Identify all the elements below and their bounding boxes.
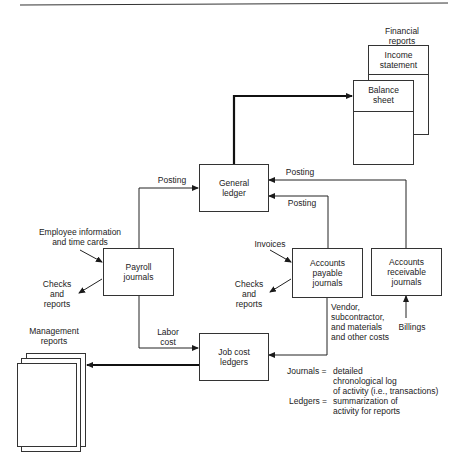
legend-ledgers-term: Ledgers = (289, 396, 339, 406)
posting-label-ap: Posting (282, 198, 322, 208)
management-reports-label: Management reports (24, 326, 84, 346)
general-ledger-box: General ledger (199, 164, 269, 212)
labor-cost-label: Labor cost (150, 327, 186, 347)
balance-sheet-label: Balance sheet (354, 81, 413, 112)
posting-label-payroll: Posting (152, 175, 192, 185)
checks-reports-ap-label: Checks and reports (230, 279, 268, 309)
payroll-journals-box: Payroll journals (103, 248, 174, 296)
employee-info-arrow (80, 250, 102, 262)
invoices-arrow (270, 250, 291, 262)
gl-to-balance-sheet-arrow (234, 96, 352, 164)
accounts-receivable-journals-box: Accounts receivable journals (371, 248, 442, 296)
invoices-label: Invoices (250, 239, 290, 249)
ap-checks-arrow (270, 279, 291, 292)
payroll-posting-arrow (139, 188, 198, 248)
legend-journals-term: Journals = (287, 366, 337, 376)
vendor-cost-arrow (269, 297, 327, 355)
billings-label: Billings (392, 322, 432, 332)
legend-journals-definition: detailed chronological log of activity (… (333, 366, 460, 396)
payroll-checks-arrow (79, 279, 102, 293)
ar-posting-arrow (269, 180, 406, 248)
checks-reports-payroll-label: Checks and reports (38, 279, 76, 309)
posting-label-ar: Posting (280, 167, 320, 177)
job-cost-ledgers-box: Job cost ledgers (199, 333, 269, 381)
accounts-payable-journals-box: Accounts payable journals (292, 248, 363, 298)
management-report-page-front (17, 363, 77, 447)
legend-ledgers-definition: summarization of activity for reports (333, 396, 460, 416)
financial-reports-title: Financial reports (372, 26, 432, 46)
balance-sheet-page: Balance sheet (353, 80, 414, 165)
employee-info-label: Employee information and time cards (30, 227, 130, 247)
income-statement-label: Income statement (369, 46, 428, 75)
top-rule (20, 3, 448, 5)
